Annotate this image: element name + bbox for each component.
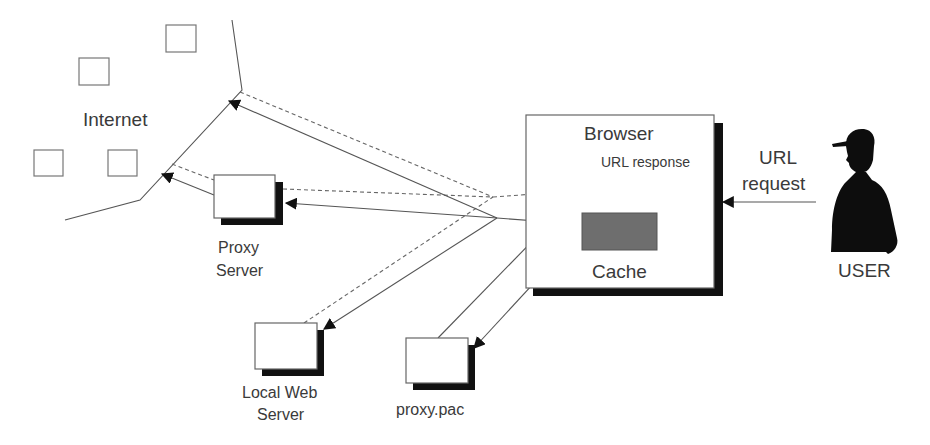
cache-block: [582, 213, 657, 250]
local-web-server-node: Local Web Server: [242, 323, 324, 423]
user-label: USER: [838, 260, 891, 281]
proxy-server-label: Server: [216, 262, 264, 279]
user-silhouette-icon: [831, 129, 897, 254]
internet-cloud: Internet: [34, 20, 242, 220]
local-web-server-box: [255, 323, 317, 369]
url-request-label: URL: [759, 147, 797, 168]
url-response-label: URL response: [601, 154, 690, 170]
browser-label: Browser: [584, 123, 654, 144]
proxy-pac-label: proxy.pac: [396, 401, 464, 418]
proxy-diagram: Internet Proxy Server Local Web Server: [0, 0, 930, 445]
browser-to-localweb-arrow: [324, 218, 497, 329]
proxy-server-node: Proxy Server: [214, 175, 283, 279]
browser-to-proxy-arrow: [286, 203, 497, 218]
internet-host-icon: [108, 150, 137, 176]
browser-node: Browser URL response Cache: [526, 115, 723, 296]
proxy-pac-box: [406, 338, 468, 383]
url-request-label: request: [742, 173, 806, 194]
local-web-server-label: Local Web: [242, 384, 317, 401]
dashed-proxy-to-internet: [172, 164, 214, 180]
proxy-pac-node: proxy.pac: [396, 338, 475, 418]
user-node: USER: [831, 129, 897, 281]
proxy-server-box: [214, 175, 275, 218]
proxy-server-label: Proxy: [218, 239, 259, 256]
dashed-internet-to-browser: [240, 92, 493, 197]
cache-label: Cache: [592, 261, 647, 282]
dashed-proxy-to-convergence: [283, 189, 493, 197]
internet-host-icon: [34, 150, 63, 176]
internet-host-icon: [166, 25, 196, 52]
internet-label: Internet: [83, 109, 148, 130]
internet-host-icon: [79, 58, 109, 85]
local-web-server-label: Server: [257, 406, 305, 423]
